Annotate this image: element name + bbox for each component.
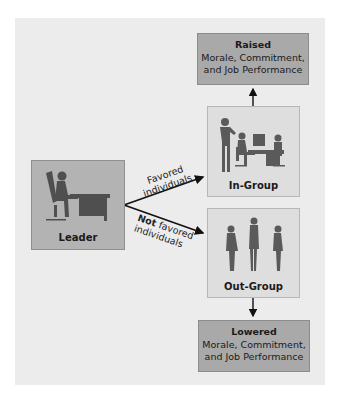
leader-box: Leader	[31, 160, 125, 250]
standing-people-icon	[208, 209, 301, 281]
leader-label: Leader	[32, 232, 124, 243]
raised-line2: and Job Performance	[198, 64, 308, 77]
office-workers-icon	[208, 107, 301, 182]
lowered-outcome-box: Lowered Morale, Commitment, and Job Perf…	[198, 320, 310, 372]
raised-line1: Morale, Commitment,	[198, 52, 308, 65]
out-group-box: Out-Group	[207, 208, 300, 298]
out-group-label: Out-Group	[208, 281, 299, 292]
leader-at-desk-icon	[32, 161, 126, 233]
raised-title: Raised	[198, 39, 308, 52]
lowered-line1: Morale, Commitment,	[199, 339, 309, 352]
in-group-box: In-Group	[207, 106, 300, 197]
raised-outcome-box: Raised Morale, Commitment, and Job Perfo…	[197, 33, 309, 85]
lowered-title: Lowered	[199, 326, 309, 339]
lowered-line2: and Job Performance	[199, 351, 309, 364]
in-group-label: In-Group	[208, 180, 299, 191]
